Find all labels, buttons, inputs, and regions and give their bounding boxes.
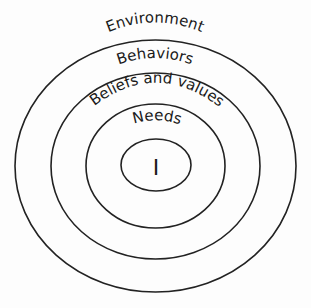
needs-label: Needs — [131, 106, 184, 128]
behaviors-label-text: Behaviors — [114, 44, 196, 69]
self-label: I — [153, 155, 160, 180]
environment-label: Environment — [103, 8, 206, 36]
needs-label-text: Needs — [131, 106, 184, 128]
concentric-layers-diagram: Environment Behaviors Beliefs and values… — [0, 0, 311, 308]
behaviors-label: Behaviors — [114, 44, 196, 69]
environment-label-text: Environment — [103, 8, 206, 36]
